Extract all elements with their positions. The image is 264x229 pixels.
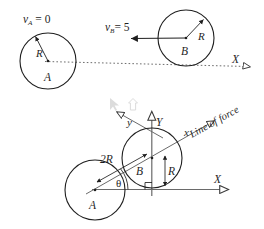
bottom-separation-label: 2R xyxy=(100,154,113,166)
top-disk-b-velocity-arrow xyxy=(131,38,186,39)
velocity-value-a: 0 xyxy=(45,13,51,25)
bottom-axis-Y-label: Y xyxy=(156,117,162,129)
velocity-value-b: 5 xyxy=(124,21,130,33)
bottom-disk-b-center-dot xyxy=(151,157,154,160)
top-disk-b-label: B xyxy=(181,46,188,58)
bottom-axis-X-label: X xyxy=(214,174,221,186)
bottom-disk-a-center-dot xyxy=(94,189,97,192)
bottom-disk-a-label: A xyxy=(89,200,96,212)
top-disk-a-radius-label: R xyxy=(36,48,43,59)
top-disk-a-label: A xyxy=(44,72,51,84)
bottom-axis-local-y-label: y xyxy=(127,117,132,128)
bottom-disk-b-label: B xyxy=(136,166,143,178)
bottom-disk-b-radius-label: R xyxy=(168,166,175,178)
figure-canvas: vA = 0 R A vB= 5 R B X y Y x Line of for… xyxy=(0,0,264,229)
cursor-artifact xyxy=(110,98,138,111)
top-disk-a-velocity-label: vA = 0 xyxy=(23,14,50,27)
bottom-angle-label: θ xyxy=(116,178,121,189)
top-axis-x-label: X xyxy=(232,54,239,66)
top-disk-b-radius-label: R xyxy=(198,31,205,42)
top-disk-b-velocity-label: vB= 5 xyxy=(105,22,130,35)
